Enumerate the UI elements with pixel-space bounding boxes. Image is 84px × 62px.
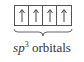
underbrace-icon [13, 28, 73, 38]
label-prefix: sp [13, 40, 25, 55]
orbital-box-1 [15, 6, 29, 25]
up-arrow-icon [46, 8, 54, 23]
orbital-box-2 [29, 6, 43, 25]
orbital-box-4 [57, 6, 71, 25]
orbital-box-row [14, 5, 72, 26]
up-arrow-icon [32, 8, 40, 23]
up-arrow-icon [60, 8, 68, 23]
orbital-label: sp3 orbitals [0, 40, 84, 56]
label-suffix: orbitals [29, 40, 71, 55]
orbital-box-3 [43, 6, 57, 25]
up-arrow-icon [18, 8, 26, 23]
